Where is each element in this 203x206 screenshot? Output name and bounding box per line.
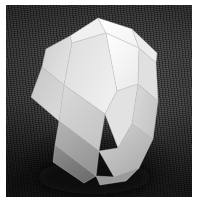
image-canvas: white paper polyhedron model dark textur… — [0, 0, 203, 206]
background-label: dark textured cloth backdrop — [0, 0, 1, 1]
subject-label: white paper polyhedron model — [0, 0, 1, 1]
rhombicuboctahedron-model — [6, 5, 192, 197]
photograph-plate — [6, 5, 192, 197]
polyhedron-svg — [6, 5, 192, 197]
